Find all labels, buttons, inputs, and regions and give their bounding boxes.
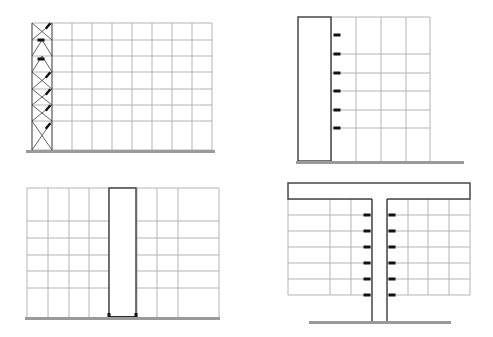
connector-icon [364, 262, 371, 265]
ground-line [309, 321, 451, 324]
ground-line [26, 150, 215, 153]
brace-line [32, 40, 42, 56]
brace-line [42, 40, 52, 56]
connector-icon [334, 90, 341, 93]
connector-icon [364, 246, 371, 249]
shear-core [298, 17, 331, 161]
structural-diagram [0, 0, 493, 337]
connector-icon [334, 109, 341, 112]
connector-icon [389, 230, 396, 233]
ground-line [25, 317, 220, 320]
t-core-panel [288, 183, 470, 324]
connector-icon [334, 72, 341, 75]
side-core-panel [296, 17, 464, 164]
ground-line [296, 161, 464, 164]
connector-icon [389, 214, 396, 217]
connector-icon [38, 58, 45, 61]
connector-icon [45, 123, 51, 130]
connector-icon [334, 53, 341, 56]
connector-icon [364, 214, 371, 217]
stem-fill [372, 198, 387, 322]
connector-icon [364, 278, 371, 281]
connector-icon [334, 34, 341, 37]
transfer-beam [288, 183, 470, 199]
braced-frame-panel [26, 23, 215, 153]
connector-icon [364, 294, 371, 297]
central-core [109, 188, 136, 317]
connector-icon [389, 262, 396, 265]
connector-icon [38, 39, 45, 42]
connector-icon [389, 246, 396, 249]
connector-icon [45, 89, 51, 96]
connector-icon [334, 127, 341, 130]
central-core-panel [25, 188, 220, 320]
connector-icon [364, 230, 371, 233]
connector-icon [45, 23, 51, 30]
connector-icon [389, 278, 396, 281]
connector-icon [389, 294, 396, 297]
connector-icon [45, 105, 51, 112]
connector-icon [45, 72, 51, 79]
